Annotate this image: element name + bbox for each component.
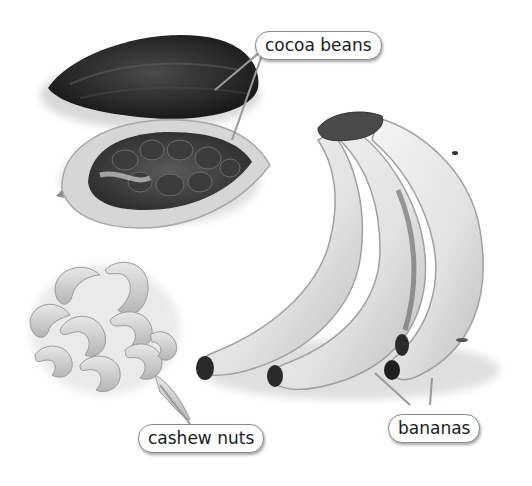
- label-cashew-nuts: cashew nuts: [138, 424, 264, 453]
- label-cocoa-beans: cocoa beans: [255, 31, 382, 60]
- label-bananas: bananas: [388, 414, 480, 443]
- cocoa-pod-whole: [40, 35, 260, 129]
- cashew-nuts: [30, 262, 190, 420]
- cocoa-pod-halved: [56, 120, 270, 228]
- figure: cocoa beans cashew nuts bananas: [0, 0, 532, 486]
